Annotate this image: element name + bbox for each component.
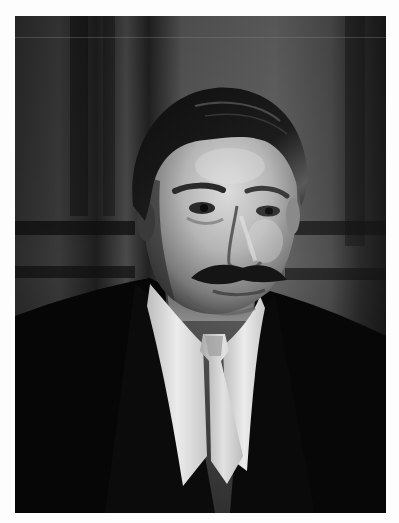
portrait-illustration [15, 16, 386, 513]
page: Black-and-white studio portrait photogra… [0, 0, 399, 523]
portrait-photo: Black-and-white studio portrait photogra… [15, 16, 386, 513]
